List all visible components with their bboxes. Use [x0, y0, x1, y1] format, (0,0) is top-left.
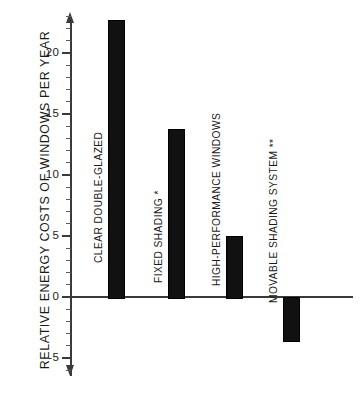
- y-axis-arrow-up-icon: [66, 12, 74, 23]
- y-axis-minor-tick: [66, 126, 72, 127]
- y-axis-tick-label: -5: [19, 351, 59, 363]
- y-axis-minor-tick: [66, 272, 72, 273]
- y-axis-tick-label: 10: [19, 168, 59, 180]
- y-axis-minor-tick: [66, 150, 72, 151]
- y-axis-minor-tick: [66, 199, 72, 200]
- y-axis-minor-tick: [66, 309, 72, 310]
- y-axis-minor-tick: [66, 101, 72, 102]
- y-axis-minor-tick: [66, 162, 72, 163]
- bar-category-label: CLEAR DOUBLE-GLAZED: [93, 132, 104, 263]
- y-axis-minor-tick: [66, 333, 72, 334]
- y-axis-minor-tick: [66, 187, 72, 188]
- y-axis-tick-label: 5: [19, 229, 59, 241]
- y-axis-major-tick: [62, 235, 71, 237]
- y-axis-minor-tick: [66, 223, 72, 224]
- y-axis-major-tick: [62, 52, 71, 54]
- chart-figure: RELATIVE ENERGY COSTS OF WINDOWS PER YEA…: [0, 0, 363, 400]
- plot-area: 20151050-5 CLEAR DOUBLE-GLAZEDFIXED SHAD…: [0, 0, 363, 400]
- y-axis-minor-tick: [66, 321, 72, 322]
- bar: [108, 20, 125, 299]
- bar: [226, 236, 243, 299]
- y-axis-minor-tick: [66, 211, 72, 212]
- y-axis-tick-label: 15: [19, 107, 59, 119]
- bar: [283, 297, 300, 342]
- bar-category-label: FIXED SHADING *: [153, 190, 164, 283]
- y-axis-minor-tick: [66, 65, 72, 66]
- y-axis-minor-tick: [66, 138, 72, 139]
- y-axis-minor-tick: [66, 89, 72, 90]
- y-axis-minor-tick: [66, 77, 72, 78]
- y-axis-minor-tick: [66, 248, 72, 249]
- y-axis-minor-tick: [66, 284, 72, 285]
- y-axis-tick-label: 20: [19, 46, 59, 58]
- y-axis-minor-tick: [66, 16, 72, 17]
- y-axis-minor-tick: [66, 28, 72, 29]
- y-axis-minor-tick: [66, 370, 72, 371]
- y-axis-minor-tick: [66, 345, 72, 346]
- y-axis-major-tick: [62, 174, 71, 176]
- y-axis-minor-tick: [66, 40, 72, 41]
- y-axis-tick-label: 0: [19, 290, 59, 302]
- y-axis-major-tick: [62, 113, 71, 115]
- y-axis-major-tick: [62, 357, 71, 359]
- bar: [168, 129, 185, 299]
- bar-category-label: MOVABLE SHADING SYSTEM **: [268, 139, 279, 303]
- bar-category-label: HIGH-PERFORMANCE WINDOWS: [211, 113, 222, 286]
- y-axis-minor-tick: [66, 260, 72, 261]
